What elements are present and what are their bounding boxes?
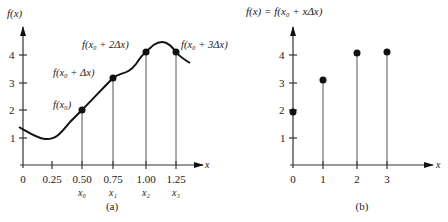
a-point-x0 (79, 107, 86, 114)
a-stems (82, 52, 176, 165)
a-sub-x1: x₁ (108, 187, 117, 198)
panel-a: f(x) x 4 3 2 1 0 0.25 0.50 0.75 1.00 (7, 7, 228, 213)
figure: f(x) x 4 3 2 1 0 0.25 0.50 0.75 1.00 (0, 0, 448, 222)
b-point-1 (320, 77, 327, 84)
a-caption: (a) (106, 200, 119, 213)
b-x-tick-2: 2 (354, 173, 360, 185)
a-sub-x0: x₀ (77, 187, 86, 198)
a-annotation-3: f(x₀ + 3Δx) (181, 39, 228, 51)
b-y-ticks: 4 3 2 1 (279, 49, 297, 144)
a-function-curve (19, 42, 190, 139)
b-x-tick-0: 0 (290, 173, 296, 185)
a-point-x3 (173, 49, 180, 56)
b-y-tick-3: 3 (279, 77, 285, 89)
b-point-2 (354, 50, 361, 57)
b-stems (323, 52, 387, 165)
b-point-0 (290, 109, 297, 116)
b-title: f(x) = f(x₀ + xΔx) (246, 5, 323, 18)
b-y-tick-4: 4 (279, 49, 285, 61)
a-sub-x3: x₃ (171, 187, 180, 198)
a-annotation-1: f(x₀ + Δx) (53, 67, 95, 79)
b-caption: (b) (356, 200, 369, 213)
a-x-tick-050: 0.50 (72, 173, 92, 185)
a-annotation-0: f(x₀) (53, 99, 72, 111)
a-point-x1 (110, 75, 117, 82)
a-x-axis-label: x (204, 159, 210, 170)
a-points (79, 49, 180, 114)
a-y-axis-label: f(x) (7, 7, 23, 20)
a-x-tick-100: 1.00 (136, 173, 156, 185)
a-sub-x2: x₂ (141, 187, 150, 198)
b-x-axis-label: x (435, 159, 441, 170)
a-y-tick-3: 3 (9, 77, 15, 89)
a-x-ticks: 0 0.25 0.50 0.75 1.00 1.25 x₀ x₁ x₂ x₃ (20, 161, 186, 198)
a-x-tick-0: 0 (20, 173, 26, 185)
a-point-x2 (143, 49, 150, 56)
a-y-tick-1: 1 (10, 132, 16, 144)
panel-b: f(x) = f(x₀ + xΔx) x 4 3 2 1 0 1 2 3 (246, 5, 441, 213)
b-y-tick-2: 2 (279, 104, 285, 116)
a-y-tick-4: 4 (9, 49, 15, 61)
a-annotation-2: f(x₀ + 2Δx) (82, 39, 129, 51)
a-x-tick-125: 1.25 (166, 173, 186, 185)
b-points (290, 49, 391, 116)
b-y-tick-1: 1 (280, 132, 286, 144)
a-x-tick-075: 0.75 (103, 173, 123, 185)
a-y-tick-2: 2 (9, 104, 15, 116)
b-x-tick-3: 3 (384, 173, 390, 185)
a-x-tick-025: 0.25 (42, 173, 62, 185)
b-point-3 (384, 49, 391, 56)
b-x-tick-1: 1 (320, 173, 326, 185)
